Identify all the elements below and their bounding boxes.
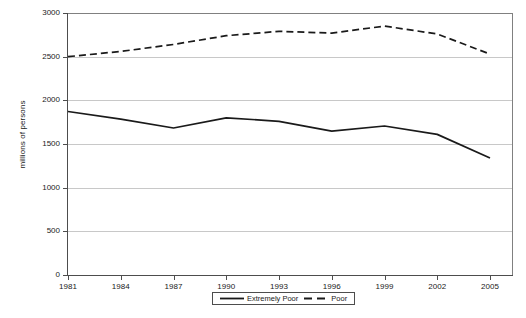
x-tick-mark (437, 276, 438, 280)
series-line-poor (68, 26, 490, 57)
x-tick-label: 1993 (257, 282, 301, 291)
legend-swatch-dashed-icon (304, 294, 328, 303)
y-axis-title: millions of persons (18, 65, 27, 205)
legend-item-poor: Poor (304, 294, 347, 303)
x-tick-label: 2005 (468, 282, 512, 291)
x-tick-label: 1981 (46, 282, 90, 291)
y-tick-label: 0 (56, 270, 60, 279)
y-tick-label: 3000 (42, 8, 60, 17)
chart-page: millions of persons 05001000150020002500… (0, 0, 526, 318)
y-tick-label: 1500 (42, 139, 60, 148)
series-line-extremely-poor (68, 112, 490, 158)
y-tick-label: 2000 (42, 95, 60, 104)
x-tick-label: 1999 (363, 282, 407, 291)
x-tick-mark (174, 276, 175, 280)
y-tick-label: 500 (47, 226, 60, 235)
legend-label-poor: Poor (331, 294, 347, 303)
y-tick-label: 2500 (42, 52, 60, 61)
x-tick-mark (279, 276, 280, 280)
legend-label-extremely-poor: Extremely Poor (247, 294, 298, 303)
x-tick-label: 1984 (99, 282, 143, 291)
x-tick-mark (332, 276, 333, 280)
chart-legend: Extremely Poor Poor (212, 292, 355, 305)
x-tick-label: 1990 (204, 282, 248, 291)
legend-swatch-solid-icon (220, 294, 244, 303)
x-tick-label: 1996 (310, 282, 354, 291)
series-lines (67, 13, 513, 275)
x-tick-mark (226, 276, 227, 280)
plot-area (67, 13, 513, 275)
y-tick-label: 1000 (42, 183, 60, 192)
legend-item-extremely-poor: Extremely Poor (220, 294, 298, 303)
x-axis-line (67, 275, 513, 276)
x-tick-mark (121, 276, 122, 280)
x-tick-mark (385, 276, 386, 280)
x-tick-mark (490, 276, 491, 280)
x-tick-label: 2002 (415, 282, 459, 291)
x-tick-label: 1987 (152, 282, 196, 291)
x-tick-mark (68, 276, 69, 280)
